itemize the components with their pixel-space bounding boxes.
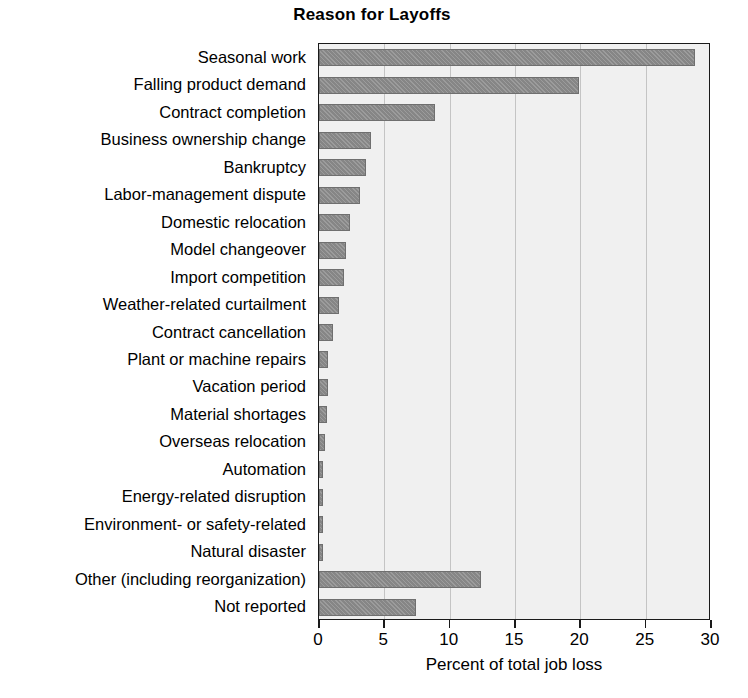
category-label: Other (including reorganization)	[0, 570, 306, 588]
bar	[319, 297, 339, 314]
x-tick-mark	[579, 620, 581, 628]
category-label: Environment- or safety-related	[0, 515, 306, 533]
category-label: Plant or machine repairs	[0, 350, 306, 368]
x-tick-label: 10	[429, 630, 469, 650]
bar	[319, 351, 328, 368]
category-label: Material shortages	[0, 405, 306, 423]
category-label: Energy-related disruption	[0, 487, 306, 505]
x-tick-label: 15	[494, 630, 534, 650]
bar	[319, 599, 416, 616]
category-label: Weather-related curtailment	[0, 295, 306, 313]
x-tick-label: 5	[363, 630, 403, 650]
bar	[319, 159, 366, 176]
bar	[319, 77, 579, 94]
category-label: Labor-management dispute	[0, 185, 306, 203]
bar-chart-figure: Reason for Layoffs Seasonal workFalling …	[0, 0, 748, 698]
x-tick-mark	[383, 620, 385, 628]
x-axis-title: Percent of total job loss	[318, 655, 710, 675]
bar	[319, 187, 360, 204]
bar	[319, 434, 325, 451]
category-label: Bankruptcy	[0, 158, 306, 176]
category-label: Natural disaster	[0, 542, 306, 560]
x-tick-label: 25	[625, 630, 665, 650]
x-tick-label: 30	[690, 630, 730, 650]
chart-title: Reason for Layoffs	[0, 5, 746, 25]
bar	[319, 406, 327, 423]
category-axis-labels: Seasonal workFalling product demandContr…	[0, 43, 312, 620]
bar	[319, 461, 323, 478]
category-label: Business ownership change	[0, 130, 306, 148]
plot-area	[318, 43, 710, 620]
bar	[319, 269, 344, 286]
x-tick-mark	[645, 620, 647, 628]
bar	[319, 544, 323, 561]
x-tick-mark	[318, 620, 320, 628]
x-tick-mark	[710, 620, 712, 628]
category-label: Seasonal work	[0, 48, 306, 66]
x-tick-mark	[514, 620, 516, 628]
x-tick-label: 0	[298, 630, 338, 650]
bar	[319, 214, 350, 231]
category-label: Vacation period	[0, 377, 306, 395]
x-axis: 051015202530	[318, 620, 710, 660]
bar	[319, 489, 323, 506]
bar	[319, 104, 435, 121]
bar	[319, 379, 328, 396]
category-label: Falling product demand	[0, 75, 306, 93]
category-label: Overseas relocation	[0, 432, 306, 450]
category-label: Contract cancellation	[0, 323, 306, 341]
category-label: Model changeover	[0, 240, 306, 258]
category-label: Not reported	[0, 597, 306, 615]
category-label: Domestic relocation	[0, 213, 306, 231]
bar-series	[319, 44, 709, 619]
x-tick-mark	[449, 620, 451, 628]
category-label: Automation	[0, 460, 306, 478]
category-label: Contract completion	[0, 103, 306, 121]
bar	[319, 132, 371, 149]
bar	[319, 324, 333, 341]
bar	[319, 571, 481, 588]
bar	[319, 516, 323, 533]
bar	[319, 49, 695, 66]
category-label: Import competition	[0, 268, 306, 286]
bar	[319, 242, 346, 259]
x-tick-label: 20	[559, 630, 599, 650]
